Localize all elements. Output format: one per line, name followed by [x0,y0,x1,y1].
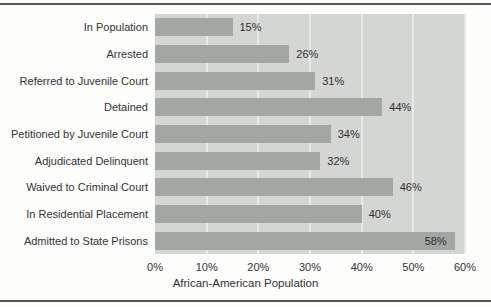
bar [155,125,331,143]
bar-row: Adjudicated Delinquent32% [0,147,491,174]
value-label: 40% [369,208,391,220]
bar-row: Waived to Criminal Court46% [0,174,491,201]
x-axis-ticks: 0%10%20%30%40%50%60% [155,261,465,274]
value-label: 44% [389,101,411,113]
bar-track: 40% [155,205,465,223]
bar [155,152,320,170]
value-label: 15% [240,21,262,33]
bar-row: In Residential Placement40% [0,201,491,228]
bar [155,72,315,90]
bar-row: Admitted to State Prisons58% [0,227,491,254]
value-label: 46% [400,181,422,193]
category-label: Petitioned by Juvenile Court [0,128,148,140]
value-label: 32% [327,155,349,167]
bar-row: Arrested26% [0,41,491,68]
bar-track: 34% [155,125,465,143]
bar-track: 44% [155,98,465,116]
category-label: Adjudicated Delinquent [0,155,148,167]
category-label: In Residential Placement [0,208,148,220]
bar [155,45,289,63]
category-label: Detained [0,101,148,113]
bar [155,205,362,223]
value-label: 58% [425,235,447,247]
x-tick-label: 30% [299,261,321,273]
bar-track: 31% [155,72,465,90]
x-axis-label: African-American Population [0,277,491,289]
bar-track: 46% [155,178,465,196]
x-tick-label: 0% [147,261,163,273]
bar-chart-figure: In Population15%Arrested26%Referred to J… [0,0,491,307]
bar-rows: In Population15%Arrested26%Referred to J… [0,14,491,254]
x-tick-label: 10% [196,261,218,273]
top-rule [0,3,491,5]
bottom-rule [0,300,491,302]
bar-track: 15% [155,18,465,36]
value-label: 26% [296,48,318,60]
x-tick-label: 60% [454,261,476,273]
bar-track: 32% [155,152,465,170]
bar [155,178,393,196]
x-tick-label: 40% [351,261,373,273]
x-tick-label: 20% [247,261,269,273]
category-label: In Population [0,21,148,33]
x-tick-label: 50% [402,261,424,273]
bar [155,98,382,116]
category-label: Referred to Juvenile Court [0,75,148,87]
value-label: 34% [338,128,360,140]
bar-row: In Population15% [0,14,491,41]
bar-row: Petitioned by Juvenile Court34% [0,121,491,148]
bar-track: 58% [155,232,465,250]
bar-row: Referred to Juvenile Court31% [0,67,491,94]
bar-track: 26% [155,45,465,63]
value-label: 31% [322,75,344,87]
category-label: Arrested [0,48,148,60]
category-label: Waived to Criminal Court [0,181,148,193]
bar-row: Detained44% [0,94,491,121]
bar: 58% [155,232,455,250]
bar [155,18,233,36]
category-label: Admitted to State Prisons [0,235,148,247]
